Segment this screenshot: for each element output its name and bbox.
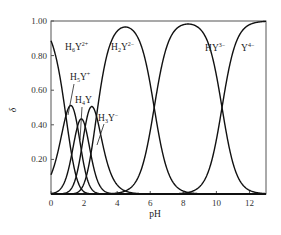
series-label: H2Y2− [111,41,135,53]
curve-h6y2 [51,41,266,194]
curve-h2y2 [51,27,266,194]
series-label: H4Y [75,95,92,106]
y-tick-label: 0.80 [31,51,47,61]
y-tick-label: 0.60 [31,85,47,95]
x-axis-label: pH [149,209,161,219]
plot-curves [51,21,266,194]
x-tick-label: 6 [148,198,153,208]
y-axis-label: δ [8,107,18,112]
x-tick-label: 8 [181,198,186,208]
x-tick-label: 12 [245,198,254,208]
x-tick-label: 0 [49,198,54,208]
series-label: H6Y2+ [65,41,89,53]
distribution-chart: 0246810120.200.400.600.801.00 H6Y2+H5Y+H… [0,0,281,235]
series-label: HY3− [205,42,226,53]
label-leader-line [97,124,104,145]
y-tick-label: 1.00 [31,16,47,26]
x-tick-label: 10 [212,198,222,208]
y-tick-label: 0.20 [31,154,47,164]
x-tick-label: 4 [115,198,120,208]
curve-h5y [51,105,266,194]
x-tick-label: 2 [82,198,87,208]
series-label: Y4− [241,42,255,53]
curve-y4 [51,21,266,194]
label-leader-line [68,84,74,115]
y-tick-label: 0.40 [31,120,47,130]
series-label: H3Y− [98,112,119,124]
series-label: H5Y+ [70,71,91,83]
label-leader-line [80,107,82,140]
